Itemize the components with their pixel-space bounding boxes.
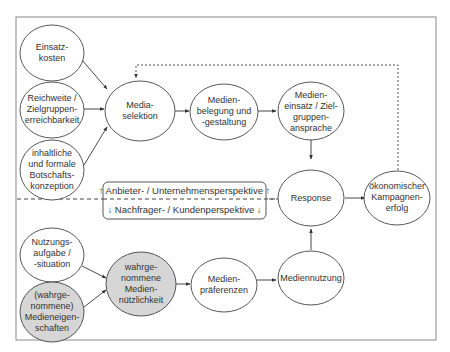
provider-perspective-label: ↑ Anbieter- / Unternehmensperspektive ↑	[99, 185, 271, 196]
node-einsatzkosten: Einsatz-kosten	[20, 25, 84, 81]
customer-perspective-label: ↓ Nachfrager- / Kundenperspektive ↓	[107, 204, 261, 215]
svg-text:Response: Response	[291, 193, 332, 203]
perspective-box: ↑ Anbieter- / Unternehmensperspektive ↑ …	[99, 182, 278, 219]
svg-text:Media-selektion: Media-selektion	[122, 100, 158, 121]
svg-text:Einsatz-kosten: Einsatz-kosten	[36, 42, 69, 63]
node-mediennutzung: Mediennutzung	[278, 251, 344, 305]
media-selection-diagram: ↑ Anbieter- / Unternehmensperspektive ↑ …	[0, 0, 450, 352]
svg-text:inhaltlicheund formaleBotschaf: inhaltlicheund formaleBotschafts-konzept…	[28, 148, 76, 191]
svg-text:Reichweite /Zielgruppen-erreic: Reichweite /Zielgruppen-erreichbarkeit	[25, 93, 80, 125]
node-medieneinsatz: Medien-einsatz / Ziel-gruppen-ansprache	[278, 82, 344, 140]
svg-text:Nutzungs-aufgabe /-situation: Nutzungs-aufgabe /-situation	[31, 237, 72, 269]
node-reichweite: Reichweite /Zielgruppen-erreichbarkeit	[20, 82, 84, 138]
svg-text:Mediennutzung: Mediennutzung	[280, 273, 342, 283]
node-mediaselektion: Media-selektion	[105, 81, 175, 141]
node-botschaftskonzeption: inhaltlicheund formaleBotschafts-konzept…	[20, 140, 84, 200]
svg-text:wahrge-nommeneMedien-nützlichk: wahrge-nommeneMedien-nützlichkeit	[119, 262, 164, 305]
node-medienbelegung: Medien-belegung und-gestaltung	[190, 84, 258, 140]
node-nutzungsaufgabe: Nutzungs-aufgabe /-situation	[20, 228, 84, 282]
node-mediennuetzlichkeit: wahrge-nommeneMedien-nützlichkeit	[106, 252, 176, 316]
node-kampagnenerfolg: ökonomischerKampagnen-erfolg	[364, 171, 430, 225]
node-medienpraeferenzen: Medien-präferenzen	[191, 258, 257, 312]
node-medieneigenschaften: (wahrge-nommene)Medieneigen-schaften	[20, 282, 84, 342]
node-response: Response	[278, 170, 344, 226]
